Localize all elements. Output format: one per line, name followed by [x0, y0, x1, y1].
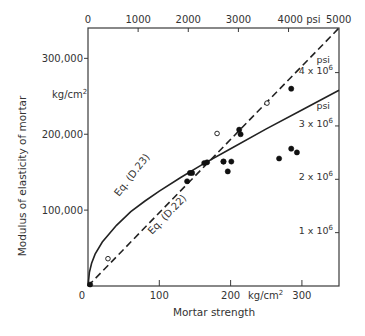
eq-d22-label: Eq. (D.22): [146, 192, 189, 236]
x-tick-label: 0: [79, 290, 85, 301]
top-tick-label: 3000: [226, 14, 251, 25]
filled-data-point: [204, 160, 209, 165]
filled-data-point: [289, 86, 294, 91]
right-tick-label: 2 x 106: [299, 170, 334, 182]
y-tick-label: 300,000: [42, 53, 83, 64]
x-tick-label: 300: [292, 290, 311, 301]
x-axis-label: Mortar strength: [173, 306, 255, 318]
y-tick-label: 200,000: [42, 129, 83, 140]
top-tick-label: 1000: [125, 14, 150, 25]
y-tick-label: 100,000: [42, 205, 83, 216]
x-tick-label: 200: [221, 290, 240, 301]
filled-data-point: [277, 156, 282, 161]
left-unit-label: kg/cm2: [52, 88, 87, 100]
open-data-point: [215, 131, 220, 136]
filled-data-point: [185, 179, 190, 184]
filled-data-point: [190, 170, 195, 175]
top-tick-label: 2000: [176, 14, 201, 25]
filled-data-point: [238, 132, 243, 137]
top-tick-label: 5000: [326, 14, 351, 25]
filled-data-point: [225, 169, 230, 174]
right-unit-label-upper: psi: [316, 54, 330, 65]
right-tick-label: 4 x 106: [299, 64, 334, 76]
filled-data-point: [289, 146, 294, 151]
eq-d23-label: Eq. (D.23): [112, 152, 152, 199]
filled-data-point: [221, 159, 226, 164]
filled-data-point: [294, 150, 299, 155]
right-tick-label: 1 x 106: [299, 224, 334, 236]
open-data-point: [265, 101, 270, 106]
y-axis-label: Modulus of elasticity of mortar: [16, 95, 28, 256]
top-tick-label: 4000 psi: [278, 14, 321, 25]
x-tick-label: 100: [150, 290, 169, 301]
open-data-point: [106, 256, 111, 261]
right-tick-label: 3 x 106: [299, 117, 334, 129]
chart: 0100200300100,000200,000300,000010002000…: [0, 0, 365, 336]
right-unit-label-lower: psi: [316, 100, 330, 111]
bottom-unit-label: kg/cm2: [248, 289, 283, 301]
top-tick-label: 0: [85, 14, 91, 25]
filled-data-point: [229, 159, 234, 164]
filled-data-point: [88, 282, 93, 287]
